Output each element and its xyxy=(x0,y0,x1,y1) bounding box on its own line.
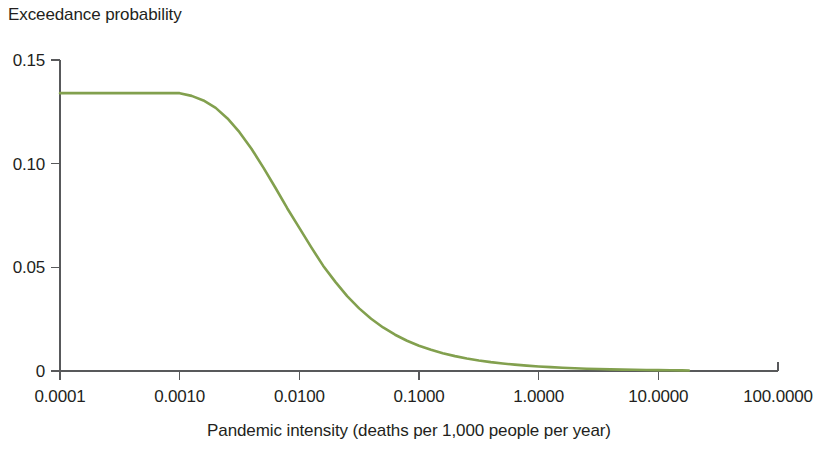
x-tick-label: 0.0010 xyxy=(154,387,205,406)
series-line-exceedance-probability xyxy=(60,93,689,370)
x-tick-label: 0.0100 xyxy=(274,387,325,406)
x-tick-label: 0.1000 xyxy=(394,387,445,406)
y-tick-label: 0.10 xyxy=(13,155,45,174)
x-tick-label: 100.0000 xyxy=(743,387,812,406)
y-tick-label: 0 xyxy=(36,362,45,381)
exceedance-probability-chart: Exceedance probability 0.150.100.050 0.0… xyxy=(0,0,818,454)
x-tick-label: 1.0000 xyxy=(513,387,564,406)
x-tick-label: 10.0000 xyxy=(628,387,688,406)
plot-area: 0.150.100.050 0.00010.00100.01000.10001.… xyxy=(0,0,818,454)
x-tick-label: 0.0001 xyxy=(35,387,86,406)
x-axis-title: Pandemic intensity (deaths per 1,000 peo… xyxy=(0,420,818,442)
y-tick-label: 0.05 xyxy=(13,258,45,277)
y-axis-ticks: 0.150.100.050 xyxy=(13,51,60,381)
y-tick-label: 0.15 xyxy=(13,51,45,70)
x-axis-ticks: 0.00010.00100.01000.10001.000010.0000100… xyxy=(35,371,813,406)
